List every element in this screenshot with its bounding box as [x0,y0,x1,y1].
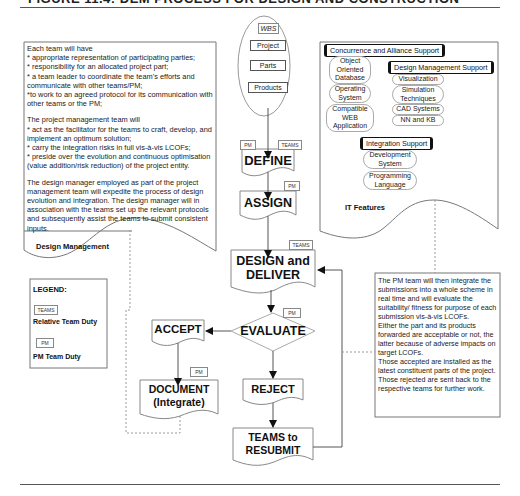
design-deliver-teams-tag: TEAMS [289,240,313,250]
design-manager-text: The design manager employed as part of t… [27,178,215,233]
it-item-os: Operating System [329,84,371,103]
define-pm-tag: PM [240,140,256,150]
design-management-text: Each team will have * appropriate repres… [27,44,215,240]
assign-pm-tag: PM [284,181,300,191]
wbs-item-project: Project [250,40,286,51]
it-item-visualization: Visualization [392,74,444,85]
pm-note-para: Either the part and its products forward… [378,321,498,357]
document-step: DOCUMENT (Integrate) [140,383,218,408]
integration-support-header: Integration Support [360,137,433,150]
team-point: * responsibility for an allocated projec… [27,62,168,71]
it-features-label: IT Features [345,203,385,212]
pm-note-para: Those rejected are sent back to the resp… [378,375,498,393]
pm-note: The PM team will then integrate the subm… [378,276,498,393]
resubmit-line2: RESUBMIT [246,444,301,456]
it-item-cad: CAD Systems [392,104,444,115]
evaluate-decision: EVALUATE [236,324,310,338]
pm-point: * preside over the evolution and continu… [27,152,210,170]
assign-step: ASSIGN [240,196,296,210]
wbs-item-parts: Parts [250,60,286,71]
pm-note-para: Those accepted are installed as the late… [378,357,498,375]
legend-teams-tag: TEAMS [34,305,58,315]
it-item-nn-kb: NN and KB [392,115,444,126]
it-item-web-app: Compatible WEB Application [326,104,374,132]
legend-teams-label: Relative Team Duty [33,318,97,325]
legend-title: LEGEND: [33,285,67,294]
it-item-prog-language: Programming Language [363,171,417,190]
it-item-database: Object Oriented Database [329,56,371,84]
define-step: DEFINE [242,153,294,168]
design-management-label: Design Management [36,242,109,251]
reject-step: REJECT [243,383,303,395]
pm-point: * carry the integration risks in full vi… [27,143,190,152]
design-deliver-line2: DELIVER [246,268,300,282]
document-line2: (Integrate) [153,396,204,408]
it-item-dev-system: Development System [363,150,417,169]
define-teams-tag: TEAMS [278,140,302,150]
it-item-simulation: Simulation Techniques [392,85,444,104]
team-intro: Each team will have [27,44,93,53]
wbs-item-products: Products [248,82,288,93]
resubmit-line1: TEAMS to [248,431,298,443]
team-point: * appropriate representation of particip… [27,53,195,62]
wbs-title: WBS [258,23,279,34]
pm-intro: The project management team will [27,115,140,124]
design-deliver-line1: DESIGN and [236,254,310,268]
team-point: * a team leader to coordinate the team's… [27,72,195,90]
accept-step: ACCEPT [152,323,204,335]
team-point: *to work to an agreed protocol for its c… [27,90,213,108]
design-deliver-step: DESIGN and DELIVER [231,254,315,282]
pm-point: * act as the facilitator for the teams t… [27,125,212,143]
evaluate-pm-tag: PM [283,308,301,318]
legend-pm-tag: PM [36,338,54,348]
legend-pm-label: PM Team Duty [33,353,81,360]
document-line1: DOCUMENT [149,383,210,395]
document-pm-tag: PM [190,367,208,377]
resubmit-step: TEAMS to RESUBMIT [233,431,313,456]
design-management-support-header: Design Management Support [388,61,494,74]
pm-note-para: The PM team will then integrate the subm… [378,276,498,321]
